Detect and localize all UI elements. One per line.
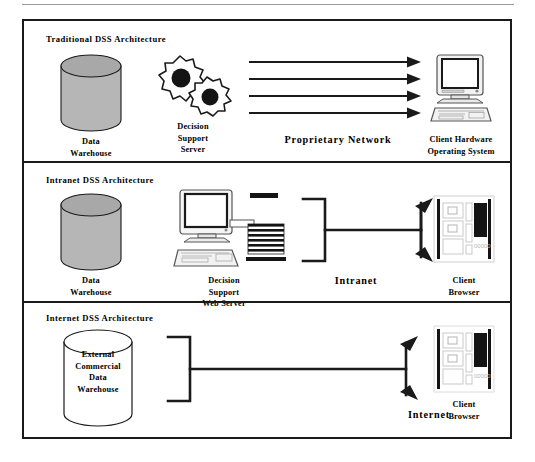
data-warehouse-icon — [58, 193, 124, 271]
caption-client-hardware: Client Hardware Operating System — [409, 134, 513, 157]
caption-decision-support-server: Decision Support Server — [147, 121, 239, 156]
decision-support-web-server-icon — [174, 188, 288, 276]
diagram-frame: Traditional DSS Architecture Data Wareho… — [22, 19, 512, 439]
caption-line: Commercial — [60, 361, 136, 373]
decision-support-server-icon — [150, 53, 236, 123]
caption-line: Support — [147, 133, 239, 145]
internet-connector — [164, 331, 434, 407]
caption-line: Warehouse — [38, 287, 144, 299]
client-browser-icon: 00000 — [433, 195, 495, 265]
caption-client-browser: Client Browser — [416, 275, 512, 298]
svg-text:00000: 00000 — [474, 243, 491, 249]
caption-line: External — [60, 349, 136, 361]
top-horizontal-rule — [22, 4, 514, 5]
network-label-intranet: Intranet — [296, 275, 416, 286]
caption-line: Support — [169, 287, 279, 299]
caption-line: Operating System — [409, 146, 513, 158]
caption-line: Client — [416, 399, 512, 411]
caption-line: Data — [60, 372, 136, 384]
caption-line: Warehouse — [60, 384, 136, 396]
caption-data-warehouse: Data Warehouse — [38, 275, 144, 298]
client-browser-icon: 00000 — [433, 325, 495, 395]
svg-text:00000: 00000 — [474, 373, 491, 379]
caption-line: Decision — [147, 121, 239, 133]
caption-external-commercial-data-warehouse: External Commercial Data Warehouse — [60, 349, 136, 395]
caption-line: Warehouse — [38, 148, 144, 160]
proprietary-network-arrows — [249, 58, 425, 122]
network-label-proprietary: Proprietary Network — [238, 134, 438, 145]
panel-intranet: Intranet DSS Architecture Data Warehouse — [24, 163, 510, 301]
panel-traditional: Traditional DSS Architecture Data Wareho… — [24, 21, 510, 161]
panel-title-traditional: Traditional DSS Architecture — [46, 34, 166, 44]
caption-line: Data — [38, 275, 144, 287]
caption-line: Client — [416, 275, 512, 287]
caption-data-warehouse: Data Warehouse — [38, 136, 144, 159]
panel-internet: Internet DSS Architecture External Comme… — [24, 303, 510, 437]
caption-line: Browser — [416, 411, 512, 423]
panel-title-internet: Internet DSS Architecture — [46, 313, 153, 323]
caption-line: Server — [147, 144, 239, 156]
caption-line: Browser — [416, 287, 512, 299]
caption-line: Client Hardware — [409, 134, 513, 146]
caption-line: Data — [38, 136, 144, 148]
client-hardware-icon — [429, 53, 493, 127]
figure-canvas: Traditional DSS Architecture Data Wareho… — [0, 0, 535, 462]
data-warehouse-icon — [58, 54, 124, 132]
caption-client-browser: Client Browser — [416, 399, 512, 422]
intranet-connector — [299, 195, 449, 267]
panel-title-intranet: Intranet DSS Architecture — [46, 175, 154, 185]
caption-line: Decision — [169, 275, 279, 287]
